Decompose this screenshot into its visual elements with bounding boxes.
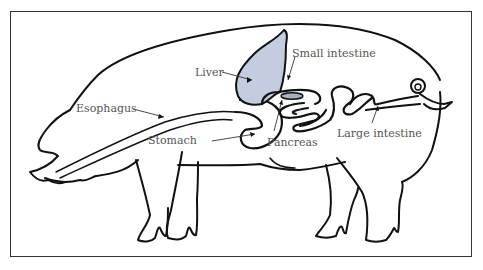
label-pancreas: Pancreas (267, 137, 318, 148)
large-intestine-lower (366, 104, 420, 110)
label-large-intestine: Large intestine (337, 128, 422, 139)
label-small-intestine: Small intestine (292, 48, 376, 59)
label-esophagus: Esophagus (76, 103, 137, 114)
pancreas (281, 93, 303, 99)
label-stomach: Stomach (148, 135, 197, 146)
liver (236, 30, 287, 105)
esophagus (56, 111, 235, 178)
large-intestine (350, 94, 418, 104)
label-liver: Liver (195, 67, 224, 78)
pig-legs (136, 152, 403, 242)
